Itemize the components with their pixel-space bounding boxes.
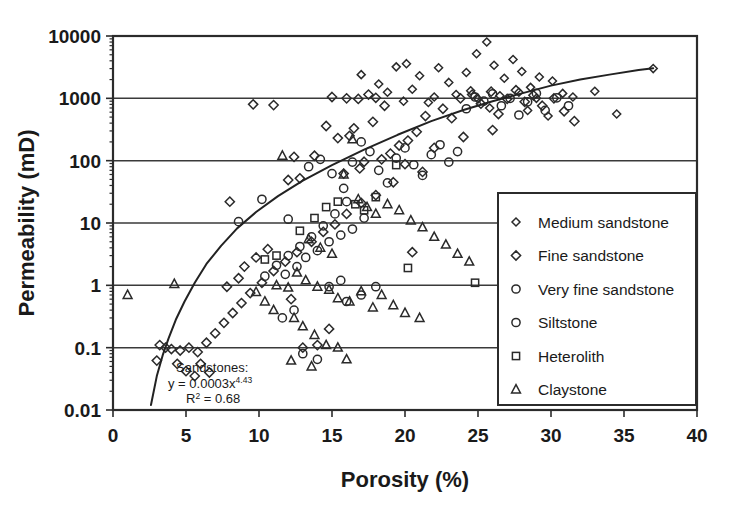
legend-label: Siltstone bbox=[538, 314, 597, 331]
x-tick-label: 30 bbox=[540, 425, 561, 446]
legend-label: Fine sandstone bbox=[538, 247, 644, 264]
annotation-line-1: Sandstones: bbox=[176, 360, 248, 375]
x-tick-label: 25 bbox=[467, 425, 489, 446]
legend-label: Medium sandstone bbox=[538, 214, 669, 231]
legend-label: Very fine sandstone bbox=[538, 281, 674, 298]
legend-label: Claystone bbox=[538, 381, 607, 398]
equation-prefix: y = 0.0003x bbox=[168, 376, 236, 391]
y-tick-label: 0.1 bbox=[75, 338, 102, 359]
x-tick-label: 40 bbox=[686, 425, 707, 446]
y-tick-label: 0.01 bbox=[64, 400, 101, 421]
equation-exponent: 4.43 bbox=[236, 375, 253, 385]
x-tick-label: 0 bbox=[108, 425, 119, 446]
r2-prefix: R bbox=[186, 391, 195, 406]
chart-canvas: 0.010.1110100100010000 0510152025303540 … bbox=[0, 0, 734, 508]
legend: Medium sandstoneFine sandstoneVery fine … bbox=[498, 193, 696, 405]
x-tick-label: 5 bbox=[181, 425, 192, 446]
y-tick-label: 10000 bbox=[48, 26, 101, 47]
x-tick-label: 15 bbox=[321, 425, 343, 446]
y-tick-label: 100 bbox=[69, 151, 101, 172]
annotation-line-3: R2 = 0.68 bbox=[186, 391, 240, 406]
y-tick-label: 1 bbox=[90, 275, 101, 296]
y-tick-label: 1000 bbox=[59, 88, 101, 109]
x-tick-label: 35 bbox=[613, 425, 635, 446]
y-tick-label: 10 bbox=[80, 213, 101, 234]
x-tick-label: 10 bbox=[248, 425, 269, 446]
legend-label: Heterolith bbox=[538, 348, 604, 365]
y-axis-title: Permeability (mD) bbox=[14, 129, 39, 316]
r2-value: = 0.68 bbox=[200, 391, 240, 406]
x-axis-title: Porosity (%) bbox=[341, 467, 469, 492]
x-tick-label: 20 bbox=[394, 425, 415, 446]
permeability-porosity-chart: 0.010.1110100100010000 0510152025303540 … bbox=[0, 0, 734, 508]
